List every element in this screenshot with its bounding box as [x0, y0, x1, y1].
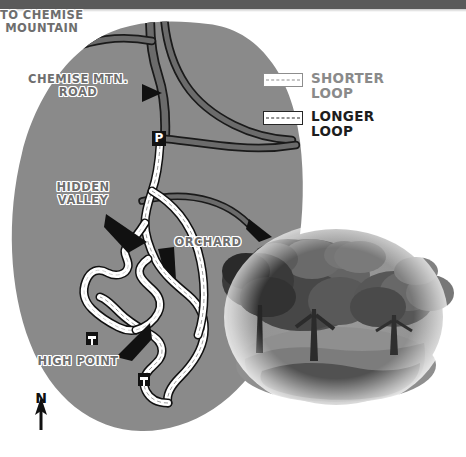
trailhead-marker-icon[interactable] — [86, 332, 98, 345]
trailhead-post-icon — [139, 376, 149, 387]
window-topbar — [0, 0, 466, 9]
map-page: CHEMISE MTN. ROAD HIDDEN VALLEY ORCHARD … — [0, 0, 466, 457]
parking-marker[interactable]: P — [152, 131, 166, 146]
legend-item-shorter-loop: SHORTER LOOP — [263, 71, 403, 101]
trailhead-post-icon — [87, 335, 97, 346]
orchard-photo-inset — [222, 223, 454, 411]
map-canvas: CHEMISE MTN. ROAD HIDDEN VALLEY ORCHARD … — [0, 9, 466, 457]
legend-label-shorter-loop: SHORTER LOOP — [311, 71, 384, 101]
trailhead-marker-icon[interactable] — [138, 373, 150, 386]
compass-rose: N — [28, 391, 54, 405]
legend-swatch-shorter-loop — [263, 73, 303, 87]
legend-label-longer-loop: LONGER LOOP — [311, 109, 374, 139]
legend-swatch-longer-loop — [263, 111, 303, 125]
map-legend: SHORTER LOOP LONGER LOOP — [263, 71, 403, 147]
legend-item-longer-loop: LONGER LOOP — [263, 109, 403, 139]
compass-north-letter: N — [28, 391, 54, 405]
